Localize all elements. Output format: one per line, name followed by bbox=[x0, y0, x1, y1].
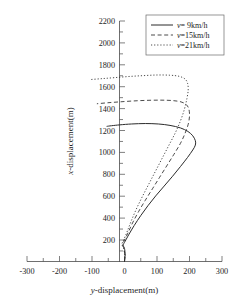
y-axis-title-rest: -displacement(m) bbox=[65, 107, 75, 170]
x-tick-label: 100 bbox=[151, 267, 163, 276]
x-axis-title: y-displacement(m) bbox=[90, 285, 158, 295]
x-tick-label: 300 bbox=[216, 267, 228, 276]
data-curves bbox=[91, 75, 196, 262]
y-tick-label: 1800 bbox=[99, 61, 115, 70]
legend-label-v9: v= 9km/h bbox=[177, 21, 208, 30]
chart-figure: 200 400 600 800 1000 1200 1400 1600 1800… bbox=[0, 0, 246, 305]
series-line-v9 bbox=[107, 124, 196, 262]
series-line-v21 bbox=[91, 75, 188, 262]
y-tick-label: 800 bbox=[103, 170, 115, 179]
x-tick-label: -100 bbox=[84, 267, 99, 276]
y-tick-label: 600 bbox=[103, 192, 115, 201]
x-tick-label: 0 bbox=[122, 267, 126, 276]
y-tick-label: 2200 bbox=[99, 17, 115, 26]
y-tick-label: 1600 bbox=[99, 83, 115, 92]
x-tick-label: -300 bbox=[19, 267, 34, 276]
y-tick-label: 2000 bbox=[99, 39, 115, 48]
chart-legend: v= 9km/h v=15km/h v=21km/h bbox=[146, 15, 224, 55]
y-tick-label: 1200 bbox=[99, 127, 115, 136]
y-axis-tick-labels: 200 400 600 800 1000 1200 1400 1600 1800… bbox=[99, 17, 115, 245]
y-axis-title: x-displacement(m) bbox=[65, 107, 75, 175]
y-tick-label: 1400 bbox=[99, 105, 115, 114]
x-tick-label: 200 bbox=[183, 267, 195, 276]
x-axis-tick-labels: -300 -200 -100 0 100 200 300 bbox=[19, 267, 228, 276]
axes-spines bbox=[27, 21, 222, 262]
x-axis-title-rest: -displacement(m) bbox=[95, 285, 158, 295]
legend-label-v15: v=15km/h bbox=[177, 31, 210, 40]
legend-label-v21: v=21km/h bbox=[177, 41, 210, 50]
y-tick-label: 200 bbox=[103, 236, 115, 245]
y-tick-label: 400 bbox=[103, 214, 115, 223]
y-tick-label: 1000 bbox=[99, 148, 115, 157]
x-tick-label: -200 bbox=[52, 267, 67, 276]
trajectory-line-chart: 200 400 600 800 1000 1200 1400 1600 1800… bbox=[0, 0, 246, 305]
